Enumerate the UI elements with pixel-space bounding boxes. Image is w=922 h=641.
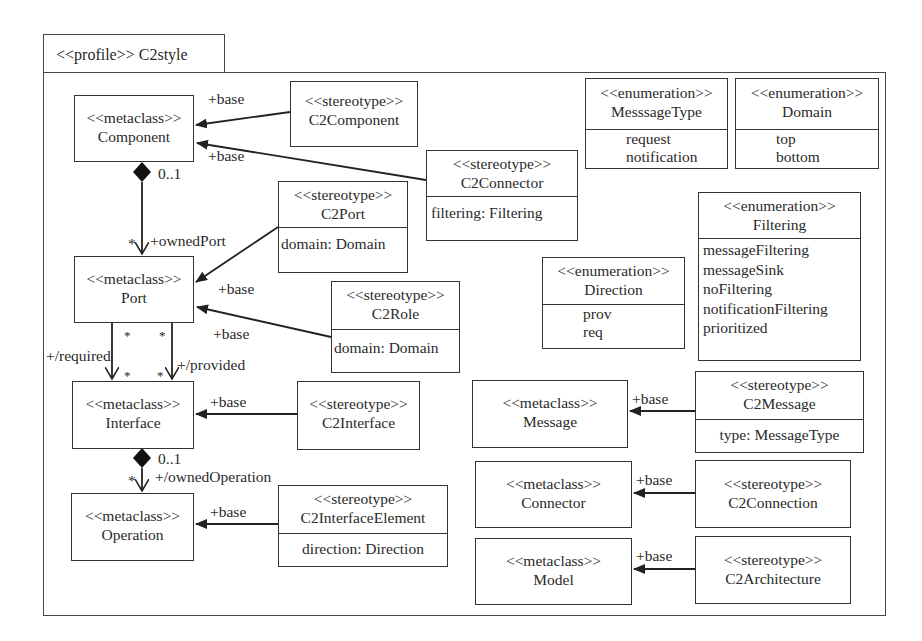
stereotype-label: <<metaclass>> [75, 108, 193, 127]
stereotype-c2component[interactable]: <<stereotype>>C2Component [290, 81, 418, 147]
role-label-ownedport: +ownedPort [150, 232, 226, 250]
attribute: domain: Domain [281, 234, 407, 253]
stereotype-label: <<stereotype>> [298, 394, 419, 413]
base-label: +base [208, 90, 244, 108]
profile-tab: <<profile>> C2style [43, 34, 225, 73]
class-name: C2Port [279, 204, 407, 223]
class-name: Filtering [699, 215, 860, 234]
enum-literal: prioritized [703, 318, 860, 338]
multiplicity-label: * [124, 367, 131, 385]
base-label: +base [210, 503, 246, 521]
enum-literal: request [626, 130, 727, 148]
attribute: direction: Direction [279, 539, 447, 558]
stereotype-label: <<enumeration>> [736, 83, 878, 102]
multiplicity-label: 0..1 [158, 450, 181, 468]
class-name: Component [75, 127, 193, 146]
stereotype-c2connector[interactable]: <<stereotype>>C2Connector filtering: Fil… [426, 150, 578, 241]
profile-title: <<profile>> C2style [56, 46, 188, 63]
metaclass-operation[interactable]: <<metaclass>>Operation [71, 493, 194, 561]
stereotype-label: <<stereotype>> [291, 91, 417, 110]
multiplicity-label: * [157, 367, 164, 385]
stereotype-c2connection[interactable]: <<stereotype>>C2Connection [695, 460, 851, 528]
stereotype-c2role[interactable]: <<stereotype>>C2Role domain: Domain [331, 281, 460, 373]
stereotype-label: <<metaclass>> [75, 269, 193, 288]
stereotype-label: <<stereotype>> [279, 185, 407, 204]
stereotype-label: <<metaclass>> [73, 394, 193, 413]
stereotype-label: <<metaclass>> [476, 474, 631, 493]
class-name: C2Architecture [696, 569, 850, 588]
class-name: C2InterfaceElement [279, 508, 447, 527]
multiplicity-label: * [128, 235, 136, 253]
role-label-provided: +/provided [177, 356, 245, 374]
attribute: filtering: Filtering [431, 203, 577, 222]
multiplicity-label: * [128, 472, 136, 490]
class-name: C2Connection [696, 493, 850, 512]
stereotype-label: <<enumeration>> [586, 83, 727, 102]
class-name: Port [75, 288, 193, 307]
class-name: C2Component [291, 110, 417, 129]
role-label-ownedoperation: +/ownedOperation [155, 468, 271, 486]
multiplicity-label: 0..1 [158, 165, 181, 183]
enum-literal: top [776, 130, 878, 148]
metaclass-model[interactable]: <<metaclass>>Model [475, 538, 632, 605]
stereotype-label: <<stereotype>> [427, 154, 577, 173]
enumeration-messagetype[interactable]: <<enumeration>>MesssageType request noti… [585, 78, 728, 169]
class-name: Connector [476, 493, 631, 512]
enum-literal: prov [583, 305, 684, 323]
metaclass-interface[interactable]: <<metaclass>>Interface [72, 381, 194, 449]
class-name: MesssageType [586, 102, 727, 121]
metaclass-component[interactable]: <<metaclass>>Component [74, 95, 194, 162]
enum-literal: notification [626, 148, 727, 166]
enum-literal: bottom [776, 148, 878, 166]
class-name: C2Connector [427, 173, 577, 192]
base-label: +base [218, 280, 254, 298]
class-name: C2Interface [298, 413, 419, 432]
enum-literal: messageFiltering [703, 240, 860, 260]
stereotype-c2message[interactable]: <<stereotype>>C2Message type: MessageTyp… [695, 371, 864, 453]
enum-literal: messageSink [703, 260, 860, 280]
base-label: +base [210, 393, 246, 411]
metaclass-port[interactable]: <<metaclass>>Port [74, 256, 194, 323]
class-name: Domain [736, 102, 878, 121]
enum-literal: noFiltering [703, 279, 860, 299]
base-label: +base [208, 147, 244, 165]
stereotype-label: <<metaclass>> [72, 506, 193, 525]
base-label: +base [632, 390, 668, 408]
stereotype-label: <<enumeration>> [699, 196, 860, 215]
stereotype-label: <<stereotype>> [696, 550, 850, 569]
stereotype-c2architecture[interactable]: <<stereotype>>C2Architecture [695, 536, 851, 604]
multiplicity-label: * [124, 327, 131, 345]
enumeration-domain[interactable]: <<enumeration>>Domain top bottom [735, 78, 879, 169]
metaclass-message[interactable]: <<metaclass>>Message [472, 380, 628, 448]
class-name: Direction [543, 280, 684, 299]
class-name: Model [476, 570, 631, 589]
base-label: +base [213, 325, 249, 343]
class-name: Operation [72, 525, 193, 544]
stereotype-c2interfaceelement[interactable]: <<stereotype>>C2InterfaceElement directi… [278, 485, 448, 567]
attribute: domain: Domain [334, 338, 459, 357]
stereotype-label: <<stereotype>> [332, 285, 459, 304]
stereotype-c2interface[interactable]: <<stereotype>>C2Interface [297, 381, 420, 450]
metaclass-connector[interactable]: <<metaclass>>Connector [475, 461, 632, 528]
class-name: Message [473, 412, 627, 431]
stereotype-c2port[interactable]: <<stereotype>>C2Port domain: Domain [278, 181, 408, 273]
multiplicity-label: * [159, 327, 166, 345]
enumeration-direction[interactable]: <<enumeration>>Direction prov req [542, 257, 685, 349]
stereotype-label: <<enumeration>> [543, 261, 684, 280]
base-label: +base [636, 471, 672, 489]
class-name: C2Role [332, 304, 459, 323]
stereotype-label: <<metaclass>> [476, 551, 631, 570]
stereotype-label: <<metaclass>> [473, 393, 627, 412]
class-name: C2Message [696, 394, 863, 413]
base-label: +base [636, 547, 672, 565]
class-name: Interface [73, 413, 193, 432]
enum-literal: notificationFiltering [703, 299, 860, 319]
enum-literal: req [583, 323, 684, 341]
attribute: type: MessageType [696, 425, 863, 444]
stereotype-label: <<stereotype>> [696, 375, 863, 394]
role-label-required: +/required [46, 347, 111, 365]
stereotype-label: <<stereotype>> [696, 474, 850, 493]
stereotype-label: <<stereotype>> [279, 489, 447, 508]
enumeration-filtering[interactable]: <<enumeration>>Filtering messageFilterin… [698, 192, 861, 361]
